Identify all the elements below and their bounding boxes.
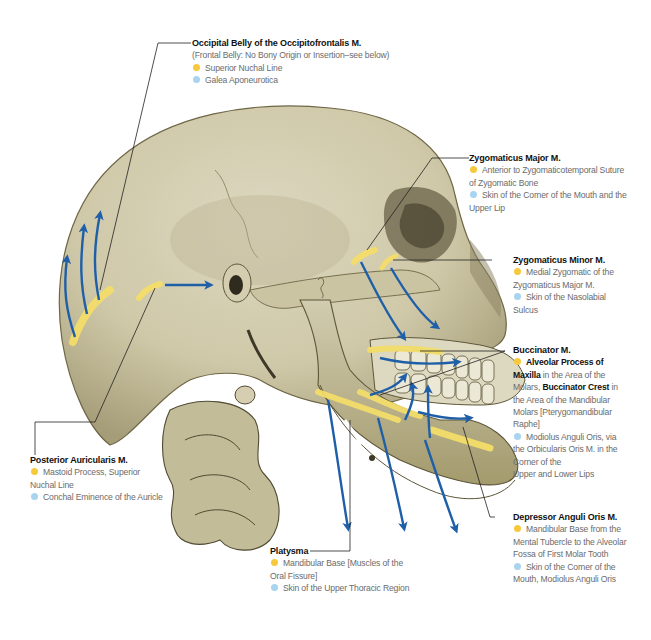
insertion-text: Skin of the Upper Thoracic Region (283, 583, 409, 593)
origin-dot-icon (514, 268, 521, 275)
origin-text: Mandibular Base from the (526, 524, 621, 534)
origin-bold: Alveolar Process of (526, 357, 603, 367)
insertion-dot-icon (193, 76, 200, 83)
origin-dot-icon (31, 468, 38, 475)
insertion-text-cont: Mouth, Modiolus Anguli Oris (513, 573, 651, 585)
label-zygomaticus-minor: Zygomaticus Minor M. Medial Zygomatic of… (513, 254, 651, 316)
origin-text: Molars [Pterygomandibular (513, 406, 651, 418)
insertion-text: Skin of the Corner of the Mouth and the (482, 190, 627, 200)
origin-bold: Maxilla (513, 370, 541, 380)
insertion-text: Conchal Eminence of the Auricle (43, 492, 163, 502)
label-title: Posterior Auricularis M. (30, 454, 200, 466)
insertion-text-cont: Corner of the (513, 456, 651, 468)
insertion-text: Skin of the Nasolabial (526, 292, 606, 302)
origin-dot-icon (470, 166, 477, 173)
origin-text-cont: Fossa of First Molar Tooth (513, 548, 651, 560)
insertion-dot-icon (271, 584, 278, 591)
label-title: Depressor Anguli Oris M. (513, 511, 651, 523)
insertion-dot-icon (514, 433, 521, 440)
label-posterior-auricularis: Posterior Auricularis M. Mastoid Process… (30, 454, 200, 504)
label-occipital-belly: Occipital Belly of the Occipitofrontalis… (192, 37, 482, 87)
skull-muscle-diagram: Occipital Belly of the Occipitofrontalis… (0, 0, 651, 640)
insertion-text-cont: the Orbicularis Oris M. in the (513, 443, 651, 455)
label-title: Buccinator M. (513, 344, 651, 356)
origin-text-cont: Nuchal Line (30, 479, 200, 491)
insertion-text: Modiolus Anguli Oris, via (526, 432, 616, 442)
origin-text: Medial Zygomatic of the (526, 267, 614, 277)
insertion-text-cont: Sulcus (513, 304, 651, 316)
origin-text-cont: Mental Tubercle to the Alveolar (513, 536, 651, 548)
origin-text: Mandibular Base [Muscles of the (283, 558, 403, 568)
label-title: Zygomaticus Minor M. (513, 254, 651, 266)
origin-text: in (609, 382, 618, 392)
origin-text-cont: Oral Fissure] (270, 570, 450, 582)
origin-text: Mastoid Process, Superior (43, 467, 140, 477)
origin-text: the Area of the Mandibular (513, 394, 651, 406)
label-depressor-anguli-oris: Depressor Anguli Oris M. Mandibular Base… (513, 511, 651, 585)
origin-dot-icon (193, 64, 200, 71)
origin-text: Superior Nuchal Line (205, 63, 282, 73)
origin-bold: Buccinator Crest (542, 382, 609, 392)
origin-dot-icon (271, 559, 278, 566)
origin-text: Raphe] (513, 418, 651, 430)
origin-dot-icon (514, 525, 521, 532)
insertion-text-cont: Upper Lip (469, 202, 649, 214)
label-note: (Frontal Belly: No Bony Origin or Insert… (192, 49, 482, 61)
label-platysma: Platysma Mandibular Base [Muscles of the… (270, 545, 450, 595)
label-title: Zygomaticus Major M. (469, 152, 649, 164)
insertion-dot-icon (514, 563, 521, 570)
insertion-dot-icon (31, 493, 38, 500)
origin-text: Molars, (513, 382, 542, 392)
insertion-text: Skin of the Corner of the (526, 562, 615, 572)
insertion-text: Galea Aponeurotica (205, 75, 278, 85)
origin-text: in the Area of the (541, 370, 606, 380)
label-zygomaticus-major: Zygomaticus Major M. Anterior to Zygomat… (469, 152, 649, 214)
origin-text-cont: of Zygomatic Bone (469, 177, 649, 189)
origin-text-cont: Zygomaticus Major M. (513, 279, 651, 291)
insertion-text-cont: Upper and Lower Lips (513, 468, 651, 480)
label-title: Occipital Belly of the Occipitofrontalis… (192, 37, 482, 49)
label-title: Platysma (270, 545, 450, 557)
insertion-dot-icon (514, 293, 521, 300)
insertion-dot-icon (470, 191, 477, 198)
label-buccinator: Buccinator M. Alveolar Process of Maxill… (513, 344, 651, 480)
origin-text: Anterior to Zygomaticotemporal Suture (482, 165, 624, 175)
origin-dot-icon (514, 358, 521, 365)
